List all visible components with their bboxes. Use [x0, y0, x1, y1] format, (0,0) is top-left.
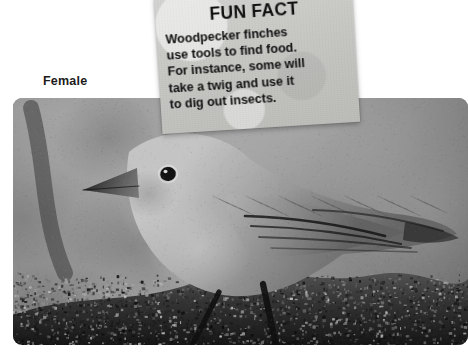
fun-fact-body: Woodpecker finches use tools to find foo… — [163, 20, 352, 113]
bird-photograph — [13, 98, 468, 345]
photo-caption-female: Female — [43, 74, 87, 88]
bird-photo-image — [13, 98, 468, 345]
fun-fact-note-card: FUN FACT Woodpecker finches use tools to… — [154, 0, 360, 134]
